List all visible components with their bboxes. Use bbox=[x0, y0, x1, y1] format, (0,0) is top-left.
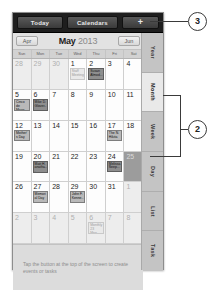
day-number: 28 bbox=[14, 59, 30, 68]
calendars-button[interactable]: Calendars bbox=[67, 16, 118, 29]
day-number: 6 bbox=[33, 90, 49, 99]
next-month-button[interactable]: Jun bbox=[118, 36, 140, 46]
calendar-day-cell[interactable]: 29John F. Kenne... bbox=[69, 182, 88, 213]
calendar-day-cell[interactable]: 7 bbox=[50, 90, 69, 121]
calendar-day-cell[interactable]: 12Mother's Day bbox=[13, 121, 32, 152]
calendar-day-cell[interactable]: 7 bbox=[106, 213, 125, 244]
calendar-day-cell[interactable]: 2 bbox=[13, 213, 32, 244]
calendar-day-cell[interactable]: 20Matt H. anatha... bbox=[32, 152, 51, 183]
calendar-event[interactable]: Matt H. anatha... bbox=[33, 161, 49, 173]
weekday-header-row: SunMonTueWedThuFriSat bbox=[13, 50, 143, 59]
day-number: 29 bbox=[33, 59, 49, 68]
calendar-day-cell[interactable]: 30 bbox=[87, 182, 106, 213]
calendar-day-cell[interactable]: 21 bbox=[50, 152, 69, 183]
calendar-day-cell[interactable]: 15 bbox=[69, 121, 88, 152]
day-number: 2 bbox=[14, 213, 30, 222]
calendar-day-cell[interactable]: 5 bbox=[69, 213, 88, 244]
day-number: 30 bbox=[51, 59, 67, 68]
view-tab-month[interactable]: Month bbox=[142, 73, 163, 113]
calendar-day-cell[interactable]: 31 bbox=[106, 182, 125, 213]
calendar-day-cell[interactable]: 3 bbox=[32, 213, 51, 244]
view-tab-task[interactable]: Task bbox=[142, 231, 163, 270]
callout-2-bracket-vertical bbox=[180, 95, 181, 157]
calendar-day-cell[interactable]: 2Susan Almod... bbox=[87, 59, 106, 90]
calendar-event[interactable]: The N. Hikita bbox=[107, 130, 123, 142]
view-tab-day[interactable]: Day bbox=[142, 152, 163, 192]
calendar-day-cell[interactable]: 30 bbox=[50, 59, 69, 90]
calendar-day-cell[interactable]: 14 bbox=[50, 121, 69, 152]
calendar-day-cell[interactable]: 19 bbox=[13, 152, 32, 183]
view-tab-list[interactable]: List bbox=[142, 192, 163, 232]
day-number: 14 bbox=[51, 121, 67, 130]
calendar-event[interactable]: Staff Meeting bbox=[70, 68, 86, 80]
calendar-day-cell[interactable]: 9 bbox=[87, 90, 106, 121]
weekday-label-thu: Thu bbox=[87, 50, 106, 58]
device-screen: Today Calendars + Apr May 2013 Jun SunMo… bbox=[12, 12, 164, 270]
month-year-title: May 2013 bbox=[38, 36, 118, 46]
calendar-day-cell[interactable]: 3 bbox=[106, 59, 125, 90]
day-number: 22 bbox=[70, 152, 86, 161]
calendar-day-cell[interactable]: 4 bbox=[50, 213, 69, 244]
calendar-event[interactable]: John F. Kenne... bbox=[70, 191, 86, 203]
day-number: 17 bbox=[107, 121, 123, 130]
day-number: 21 bbox=[51, 152, 67, 161]
calendar-day-cell[interactable]: 8 bbox=[69, 90, 88, 121]
calendar-day-cell[interactable]: 10 bbox=[106, 90, 125, 121]
calendar-event[interactable]: Mike D. Glover... bbox=[33, 99, 49, 111]
day-number: 25 bbox=[125, 152, 142, 161]
calendar-day-cell[interactable]: 29 bbox=[32, 59, 51, 90]
day-number: 6 bbox=[88, 213, 104, 222]
view-mode-tab-rail: YearMonthWeekDayListTask bbox=[141, 33, 163, 270]
view-tab-label: List bbox=[142, 206, 164, 217]
calendar-day-cell[interactable]: 6Monthly 23 Mee... bbox=[87, 213, 106, 244]
calendar-day-cell[interactable]: 17The N. Hikita bbox=[106, 121, 125, 152]
add-event-button[interactable]: + bbox=[122, 16, 159, 29]
day-number: 8 bbox=[125, 213, 142, 222]
calendar-day-cell[interactable]: 28 bbox=[13, 59, 32, 90]
day-number: 3 bbox=[33, 213, 49, 222]
calendar-event[interactable]: Mother's Day bbox=[14, 130, 30, 142]
calendar-day-cell[interactable]: 16 bbox=[87, 121, 106, 152]
calendar-event[interactable]: Susan Almod... bbox=[88, 68, 104, 80]
day-number: 24 bbox=[107, 152, 123, 161]
day-number: 7 bbox=[51, 90, 67, 99]
calendar-day-cell[interactable]: 28 bbox=[50, 182, 69, 213]
day-number: 11 bbox=[125, 90, 142, 99]
day-number: 7 bbox=[107, 213, 123, 222]
previous-month-button[interactable]: Apr bbox=[16, 36, 38, 46]
view-tab-week[interactable]: Week bbox=[142, 112, 163, 152]
calendar-day-cell[interactable]: 27Memorial Day bbox=[32, 182, 51, 213]
day-number: 5 bbox=[70, 213, 86, 222]
top-toolbar: Today Calendars + bbox=[13, 13, 163, 33]
calendar-day-cell[interactable]: 6Mike D. Glover... bbox=[32, 90, 51, 121]
callout-marker-2: 2 bbox=[188, 120, 207, 139]
month-label: May bbox=[59, 36, 76, 46]
calendar-grid: 2829301Staff Meeting2Susan Almod...345Ci… bbox=[13, 59, 143, 244]
day-number: 1 bbox=[70, 59, 86, 68]
callout-marker-3: 3 bbox=[188, 12, 207, 31]
day-number: 30 bbox=[88, 182, 104, 191]
day-number: 19 bbox=[14, 152, 30, 161]
view-tab-year[interactable]: Year bbox=[142, 33, 163, 73]
day-number: 31 bbox=[107, 182, 123, 191]
day-number: 10 bbox=[107, 90, 123, 99]
today-button[interactable]: Today bbox=[17, 16, 63, 29]
calendar-day-cell[interactable]: 22 bbox=[69, 152, 88, 183]
day-number: 4 bbox=[125, 59, 142, 68]
calendar-day-cell[interactable]: 1Staff Meeting bbox=[69, 59, 88, 90]
calendar-day-cell[interactable]: 5Cinco de Mayo bbox=[13, 90, 32, 121]
calendar-event[interactable]: Memorial Day bbox=[33, 191, 49, 203]
day-number: 23 bbox=[88, 152, 104, 161]
calendar-day-cell[interactable]: 13 bbox=[32, 121, 51, 152]
calendar-day-cell[interactable]: 23 bbox=[87, 152, 106, 183]
day-number: 28 bbox=[51, 182, 67, 191]
calendar-event[interactable]: Melissa Seep... bbox=[107, 161, 123, 173]
calendar-event[interactable]: Monthly 23 Mee... bbox=[88, 222, 104, 234]
day-number: 27 bbox=[33, 182, 49, 191]
calendar-event[interactable]: Cinco de Mayo bbox=[14, 99, 30, 111]
calendar-day-cell[interactable]: 24Melissa Seep... bbox=[106, 152, 125, 183]
callout-3-leader-line bbox=[150, 21, 188, 22]
day-number: 16 bbox=[88, 121, 104, 130]
calendar-day-cell[interactable]: 26 bbox=[13, 182, 32, 213]
day-number: 2 bbox=[88, 59, 104, 68]
